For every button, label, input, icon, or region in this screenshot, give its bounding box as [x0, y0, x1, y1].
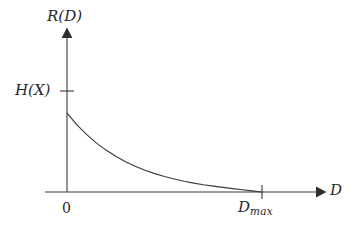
dmax-base: D [238, 198, 250, 216]
y-axis-arrow-icon [62, 28, 73, 39]
rate-distortion-figure: R(D) D H(X) 0 Dmax [0, 0, 353, 231]
y-axis-tick-label-hx: H(X) [15, 83, 50, 98]
x-axis-tick-label-dmax: Dmax [238, 200, 273, 215]
y-axis-label: R(D) [47, 9, 82, 24]
plot-canvas [0, 0, 353, 231]
origin-label: 0 [62, 201, 71, 215]
rate-distortion-curve [67, 113, 262, 192]
dmax-subscript: max [250, 205, 273, 217]
x-axis-arrow-icon [316, 187, 327, 198]
x-axis-label: D [330, 183, 342, 198]
